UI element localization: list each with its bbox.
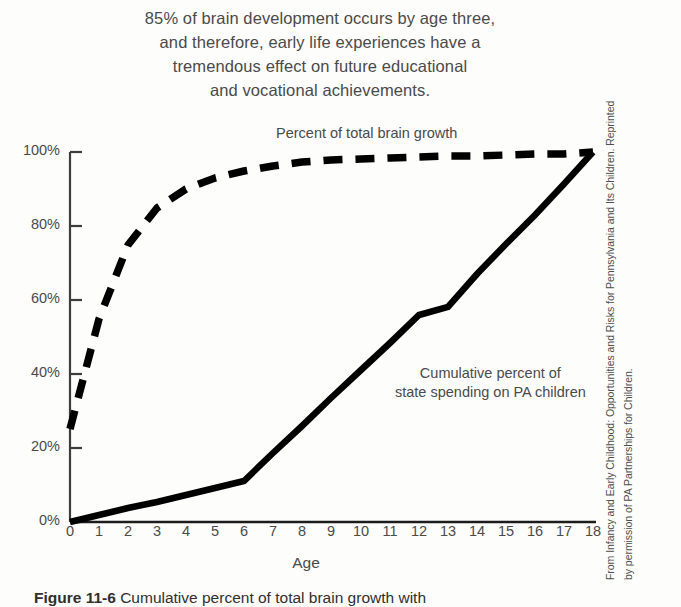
y-tick-label-40: 40% [6,364,60,380]
y-axis-ticks [70,152,82,522]
figure-caption-text: Cumulative percent of total brain growth… [120,589,426,606]
x-tick-label-16: 16 [524,523,546,539]
figure-caption: Figure 11-6 Cumulative percent of total … [0,588,612,607]
figure-caption-inner: Figure 11-6 Cumulative percent of total … [34,589,426,607]
x-tick-label-1: 1 [88,523,110,539]
y-tick-label-80: 80% [6,216,60,232]
y-tick-label-60: 60% [6,290,60,306]
y-tick-label-20: 20% [6,438,60,454]
x-tick-label-7: 7 [262,523,284,539]
plot-canvas [0,108,612,578]
x-tick-label-9: 9 [320,523,342,539]
title-line-4: and vocational achievements. [60,78,580,102]
chart-title: 85% of brain development occurs by age t… [60,6,580,102]
x-tick-label-14: 14 [466,523,488,539]
chart-axes [70,152,596,522]
series-label-state-spending-line2: state spending on PA children [395,383,586,402]
source-credit-line-2: by permission of PA Partnerships for Chi… [622,368,634,580]
title-line-1: 85% of brain development occurs by age t… [60,6,580,30]
x-tick-label-11: 11 [379,523,401,539]
x-tick-label-8: 8 [291,523,313,539]
x-tick-label-15: 15 [495,523,517,539]
x-tick-label-13: 13 [437,523,459,539]
x-tick-label-18: 18 [582,523,604,539]
series-label-state-spending: Cumulative percent of state spending on … [395,364,586,402]
x-tick-label-5: 5 [204,523,226,539]
x-tick-label-0: 0 [59,523,81,539]
y-tick-label-0: 0% [6,512,60,528]
series-label-state-spending-line1: Cumulative percent of [395,364,586,383]
source-credit-line-1: From Infancy and Early Childhood: Opport… [604,101,616,580]
y-tick-label-100: 100% [6,142,60,158]
figure-caption-number: Figure 11-6 [34,589,116,606]
x-tick-label-2: 2 [117,523,139,539]
x-tick-label-10: 10 [350,523,372,539]
x-tick-label-12: 12 [408,523,430,539]
line-chart: 100% 80% 60% 40% 20% 0% 0 1 2 3 4 5 6 7 … [0,108,612,578]
x-tick-label-3: 3 [146,523,168,539]
x-tick-label-17: 17 [553,523,575,539]
series-label-brain-growth: Percent of total brain growth [276,124,457,143]
x-tick-label-6: 6 [233,523,255,539]
series-line-state-spending [70,152,593,522]
source-credit: From Infancy and Early Childhood: Opport… [602,0,681,580]
x-tick-label-4: 4 [175,523,197,539]
title-line-2: and therefore, early life experiences ha… [60,30,580,54]
title-line-3: tremendous effect on future educational [60,54,580,78]
x-axis-title: Age [0,554,612,572]
